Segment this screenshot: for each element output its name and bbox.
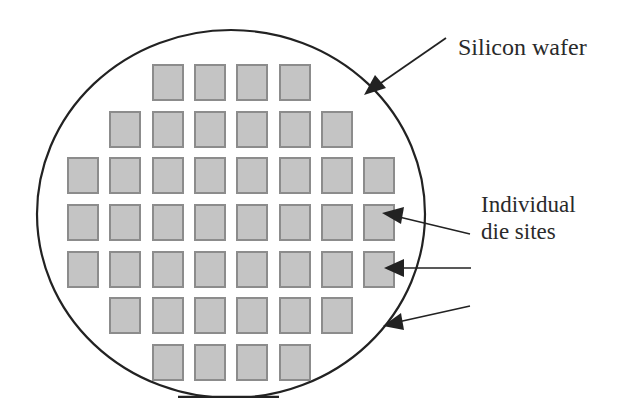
wafer-arrow [364, 38, 446, 95]
silicon-wafer-label: Silicon wafer [458, 35, 587, 59]
individual-die-sites-label-line2: die sites [481, 220, 556, 243]
individual-die-sites-label-line1: Individual [481, 193, 576, 216]
wafer-diagram: Silicon wafer Individual die sites [0, 0, 630, 415]
die-arrow-1 [382, 207, 470, 234]
die-arrow-2 [384, 259, 471, 277]
die-arrow-3 [383, 306, 470, 330]
